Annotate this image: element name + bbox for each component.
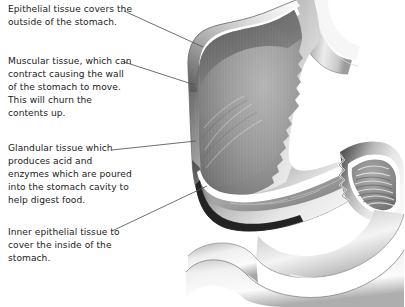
callout-muscular: Muscular tissue, which can contract caus… <box>8 55 134 120</box>
callout-epithelial-inner: Inner epithelial tissue to cover the ins… <box>8 226 134 265</box>
callout-glandular: Glandular tissue which produces acid and… <box>8 142 134 207</box>
leader-line-muscular <box>124 62 195 85</box>
leader-line-epithelial-outer <box>124 11 203 47</box>
callout-epithelial-outer: Epithelial tissue covers the outside of … <box>8 3 134 29</box>
pylorus-rugae <box>339 141 404 222</box>
